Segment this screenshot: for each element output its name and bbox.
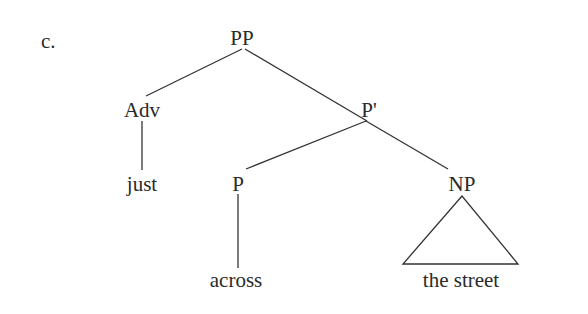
syntax-tree-diagram: c. PP Adv P' just P NP across the street: [0, 0, 588, 314]
node-np: NP: [449, 174, 476, 195]
node-p: P: [232, 174, 244, 195]
leaf-the-street: the street: [423, 270, 499, 291]
leaf-across: across: [210, 270, 262, 291]
node-pp: PP: [230, 28, 253, 49]
branch-pbar-p: [246, 121, 366, 169]
branch-pp-pbar: [245, 49, 367, 121]
tree-branches: [0, 0, 588, 314]
leaf-just: just: [127, 174, 157, 195]
branch-pbar-np: [366, 121, 448, 169]
node-adv: Adv: [124, 100, 160, 121]
example-label: c.: [41, 31, 56, 52]
branch-pp-adv: [146, 49, 242, 96]
node-p-bar: P': [361, 100, 376, 121]
np-triangle: [403, 196, 518, 264]
